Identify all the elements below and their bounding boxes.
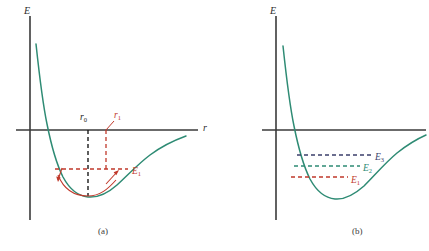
- physics-figure: E r r0 r1 E1 (a) E E3 E2 E1 (b): [0, 0, 429, 251]
- panel-b-level-e3-label: E3: [375, 152, 384, 163]
- panel-b-plot: [0, 0, 429, 251]
- panel-b-y-axis-label: E: [270, 5, 276, 16]
- panel-b-caption: (b): [352, 226, 363, 236]
- panel-b-e2-subscript: 2: [369, 167, 372, 174]
- panel-b-e1-subscript: 1: [357, 179, 360, 186]
- panel-b-level-e1-label: E1: [351, 175, 360, 186]
- panel-b-level-e2-label: E2: [363, 163, 372, 174]
- panel-b-e3-subscript: 3: [381, 156, 384, 163]
